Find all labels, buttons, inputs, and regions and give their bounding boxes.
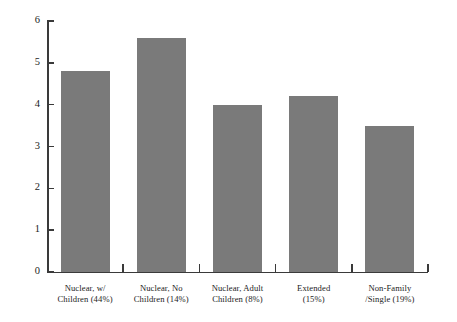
x-axis-category-label-line: Nuclear, No <box>123 283 199 294</box>
bar <box>61 71 110 272</box>
x-axis-tick <box>275 264 277 272</box>
y-axis-tick-label-wrap: 3 <box>0 141 40 153</box>
x-axis-category-label-line: Children (14%) <box>123 294 199 305</box>
y-axis-tick-label-wrap: 2 <box>0 182 40 194</box>
x-axis-tick <box>199 264 201 272</box>
x-axis-category-label-line: (15%) <box>276 294 352 305</box>
y-axis-tick-label: 1 <box>20 224 40 235</box>
y-axis-tick <box>47 62 54 64</box>
y-axis-tick-label-wrap: 1 <box>0 224 40 236</box>
bar-chart: 0123456 Nuclear, w/Children (44%)Nuclear… <box>0 0 457 322</box>
x-axis-category-label: Nuclear, w/Children (44%) <box>47 283 123 305</box>
x-axis-category-label-line: Nuclear, w/ <box>47 283 123 294</box>
y-axis-tick-label: 2 <box>20 182 40 193</box>
y-axis-tick-label-wrap: 5 <box>0 57 40 69</box>
y-axis-tick-label: 3 <box>20 141 40 152</box>
y-axis-tick-label-wrap: 6 <box>0 15 40 27</box>
y-axis-tick-label: 4 <box>20 99 40 110</box>
x-axis-category-label-line: /Single (19%) <box>352 294 428 305</box>
x-axis-category-label-line: Children (44%) <box>47 294 123 305</box>
x-axis-category-label: Nuclear, AdultChildren (8%) <box>199 283 275 305</box>
x-axis-end-cap <box>427 264 429 272</box>
x-axis-category-label-line: Children (8%) <box>199 294 275 305</box>
bar <box>365 126 414 272</box>
y-axis-tick-label: 6 <box>20 15 40 26</box>
y-axis-tick <box>47 20 54 22</box>
x-axis-category-label-line: Nuclear, Adult <box>199 283 275 294</box>
y-axis-tick-label-wrap: 0 <box>0 266 40 278</box>
y-axis-tick <box>47 188 54 190</box>
bar <box>137 38 186 272</box>
y-axis-tick <box>47 146 54 148</box>
y-axis-tick-label-wrap: 4 <box>0 99 40 111</box>
x-axis-category-label: Non-Family/Single (19%) <box>352 283 428 305</box>
y-axis-tick-label: 5 <box>20 57 40 68</box>
y-axis-tick <box>47 229 54 231</box>
y-axis-tick <box>47 104 54 106</box>
x-axis-category-label-line: Non-Family <box>352 283 428 294</box>
y-axis-tick-label: 0 <box>20 266 40 277</box>
x-axis-category-label: Nuclear, NoChildren (14%) <box>123 283 199 305</box>
bar <box>289 96 338 272</box>
x-axis-tick <box>351 264 353 272</box>
bar <box>213 105 262 272</box>
x-axis-category-label: Extended(15%) <box>276 283 352 305</box>
y-axis-tick <box>47 271 54 273</box>
x-axis-category-label-line: Extended <box>276 283 352 294</box>
x-axis-tick <box>122 264 124 272</box>
